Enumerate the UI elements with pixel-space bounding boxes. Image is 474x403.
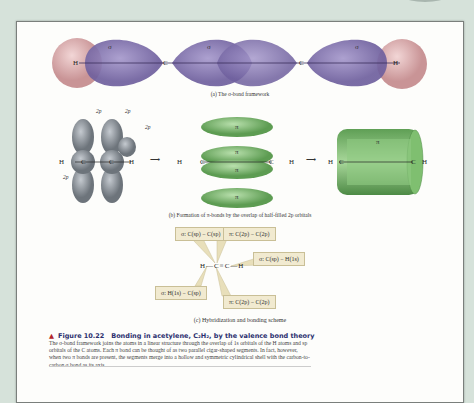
figure-title-text: Bonding in acetylene, C₂H₂, by the valen… (111, 332, 314, 340)
label-pi-c2p-c2p-top: π: C(2p) − C(2p) (223, 227, 276, 241)
triangle-icon: ▲ (49, 332, 54, 340)
caption-divider (49, 366, 311, 367)
textbook-page: H C C H σ σ σ (a) The σ-bond framework 2… (16, 21, 464, 403)
c-atom-h1: H (200, 262, 206, 270)
label-sigma-csp-h1s: σ: C(sp) − H(1s) (253, 252, 305, 266)
figure-title: ▲Figure 10.22 Bonding in acetylene, C₂H₂… (49, 332, 315, 340)
c-atom-c2: C (225, 262, 231, 270)
bonding-scheme-pointers (17, 22, 463, 342)
label-pi-c2p-c2p-bottom: π: C(2p) − C(2p) (223, 295, 276, 309)
c-atom-h2: H (238, 262, 244, 270)
label-sigma-h1s-csp: σ: H(1s) − C(sp) (155, 286, 207, 300)
background-shadow (405, 0, 445, 2)
label-sigma-csp-csp: σ: C(sp) − C(sp) (175, 227, 226, 241)
part-c-caption: (c) Hybridization and bonding scheme (17, 317, 463, 323)
c-atom-c1: C (214, 262, 220, 270)
figure-body-text: The σ-bond framework joins the atoms in … (49, 340, 311, 369)
figure-number: Figure 10.22 (58, 332, 104, 340)
acetylene-structure: H—C≡C—H (200, 262, 244, 270)
